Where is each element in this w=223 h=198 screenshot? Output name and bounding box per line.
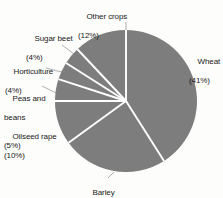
slice-label-wheat-name: Wheat [198,57,221,66]
slice-label-other-crops-name: Other crops [87,12,128,21]
slice-label-wheat-pct: (41%) [189,76,220,86]
slice-label-wheat: Wheat (41%) [189,47,220,104]
slice-label-peas-and-beans-name-2: beans [4,113,46,123]
slice-label-sugar-beet-name: Sugar beet [35,34,73,43]
slice-label-other-crops: Other crops (12%) [78,2,127,59]
slice-label-horticulture-name: Horticulture [14,67,54,76]
slice-label-peas-and-beans-name-1: Peas and [13,94,46,103]
slice-label-oilseed-rape-name: Oilseed rape [13,132,57,141]
pie-chart-figure: Other crops (12%) Sugar beet (4%) Hortic… [0,0,223,198]
slice-label-other-crops-pct: (12%) [78,31,127,41]
slice-label-oilseed-rape: Oilseed rape (10%) [4,122,57,179]
slice-label-oilseed-rape-pct: (10%) [4,151,57,161]
slice-label-barley: Barley (24%) [84,178,115,198]
slice-label-barley-name: Barley [93,188,115,197]
